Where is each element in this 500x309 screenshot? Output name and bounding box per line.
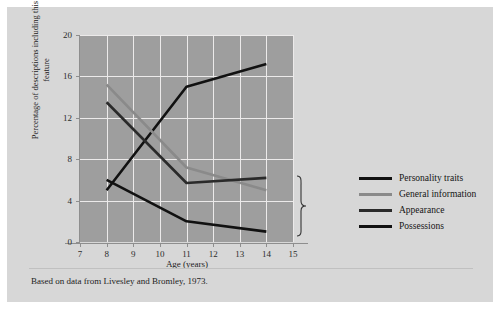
legend-swatch-icon [359,177,392,180]
legend-swatch-icon [359,193,392,196]
legend-item-label: Appearance [399,205,444,215]
x-tick-label: 11 [177,250,197,259]
series-lines [80,35,293,242]
x-tick-label: 7 [70,250,90,259]
series-line [107,102,267,183]
y-tick-mark [76,201,80,202]
legend-item: Appearance [359,202,487,218]
figure-panel: 048121620 789101112131415 Percentage of … [7,7,493,302]
x-tick-mark [213,243,214,247]
x-tick-label: 15 [283,250,303,259]
y-tick-mark [76,76,80,77]
plot-area [80,35,293,242]
x-tick-mark [240,243,241,247]
y-axis-line [79,35,80,243]
y-tick-mark [76,35,80,36]
legend: Personality traitsGeneral informationApp… [359,170,487,234]
legend-item-label: Personality traits [399,173,463,183]
y-axis-title: Percentage of descriptions including thi… [30,0,52,145]
x-tick-mark [293,243,294,247]
x-tick-mark [266,243,267,247]
gridline-vertical [293,35,294,242]
y-tick-mark [76,118,80,119]
legend-item: Possessions [359,218,487,234]
x-tick-label: 9 [123,250,143,259]
y-tick-label: 0 [48,238,72,247]
x-tick-mark [160,243,161,247]
legend-item: Personality traits [359,170,487,186]
x-tick-mark [107,243,108,247]
x-tick-label: 12 [203,250,223,259]
legend-item-label: General information [399,189,476,199]
legend-swatch-icon [359,225,392,228]
legend-item: General information [359,186,487,202]
y-tick-label: 8 [48,155,72,164]
x-tick-mark [80,243,81,247]
x-tick-label: 14 [256,250,276,259]
legend-swatch-icon [359,209,392,212]
series-line [107,85,267,191]
x-tick-label: 8 [97,250,117,259]
x-tick-label: 13 [230,250,250,259]
brace-annotation [295,175,308,237]
legend-item-label: Possessions [399,221,444,231]
y-tick-mark [76,159,80,160]
y-tick-label: 4 [48,197,72,206]
series-line [107,180,267,232]
x-tick-mark [133,243,134,247]
x-tick-mark [187,243,188,247]
figure-caption: Based on data from Livesley and Bromley,… [31,275,461,287]
caption-divider [29,268,473,269]
x-tick-label: 10 [150,250,170,259]
